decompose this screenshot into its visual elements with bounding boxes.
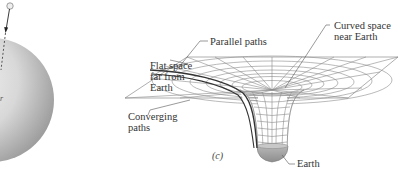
spacetime-figure: r <box>0 0 408 174</box>
earth-label: Earth <box>297 158 320 169</box>
panel-c-label: (c) <box>212 150 223 161</box>
curved-space-label: Curved space near Earth <box>334 20 391 42</box>
earth-ball <box>257 143 288 162</box>
converging-paths-label: Converging paths <box>128 111 177 133</box>
earth-sphere <box>0 38 54 162</box>
parallel-paths-label: Parallel paths <box>210 36 267 47</box>
flat-space-label: Flat space far from Earth <box>150 60 192 93</box>
